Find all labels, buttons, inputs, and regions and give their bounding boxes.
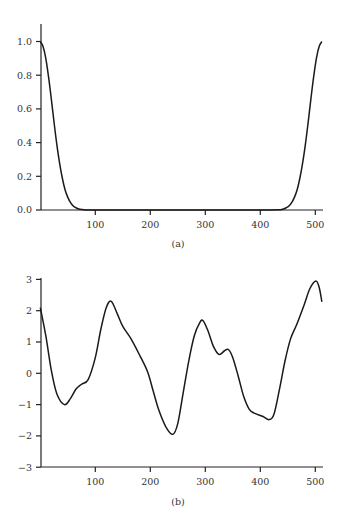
x-tick-label: 200 (141, 476, 159, 487)
y-tick-label: −2 (18, 430, 32, 441)
y-tick-label: 3 (26, 274, 32, 285)
x-tick-label: 300 (196, 476, 214, 487)
y-tick-label: 0.4 (17, 137, 32, 148)
chart-a-line (40, 42, 322, 211)
chart-b-caption: (b) (171, 496, 185, 507)
x-tick-label: 500 (306, 219, 324, 230)
chart-b-axes (41, 278, 323, 467)
x-tick-label: 500 (306, 476, 324, 487)
y-tick-label: −3 (18, 462, 32, 473)
x-tick-label: 400 (251, 219, 269, 230)
y-tick-label: 0.6 (17, 103, 32, 114)
y-tick-label: 1 (26, 336, 32, 347)
x-tick-label: 400 (251, 476, 269, 487)
figure: 0.00.20.40.60.81.0 100200300400500 (a) −… (0, 0, 342, 524)
chart-a-x-ticks: 100200300400500 (86, 210, 324, 230)
x-tick-label: 200 (141, 219, 159, 230)
y-tick-label: 1.0 (17, 36, 32, 47)
y-tick-label: 0.2 (17, 171, 32, 182)
chart-a: 0.00.20.40.60.81.0 100200300400500 (a) (17, 24, 324, 249)
x-tick-label: 100 (86, 219, 104, 230)
chart-b-y-ticks: −3−2−10123 (18, 274, 41, 473)
chart-b: −3−2−10123 100200300400500 (b) (18, 274, 324, 507)
chart-a-caption: (a) (171, 238, 184, 249)
chart-a-axes (41, 24, 323, 210)
y-tick-label: 2 (26, 305, 32, 316)
chart-a-y-ticks: 0.00.20.40.60.81.0 (17, 36, 41, 216)
y-tick-label: 0.0 (17, 204, 32, 215)
y-tick-label: −1 (18, 399, 32, 410)
x-tick-label: 300 (196, 219, 214, 230)
x-tick-label: 100 (86, 476, 104, 487)
y-tick-label: 0.8 (17, 70, 32, 81)
chart-b-x-ticks: 100200300400500 (86, 467, 324, 487)
chart-b-line (40, 281, 322, 434)
y-tick-label: 0 (26, 368, 32, 379)
